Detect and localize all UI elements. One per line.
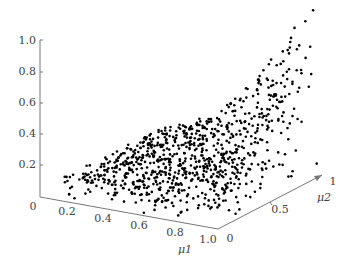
data-point [152,138,155,141]
data-point [136,145,139,148]
mu1-tick-label: 0.8 [166,226,184,239]
data-point [72,174,75,177]
data-point [277,119,280,122]
data-point [236,171,239,174]
data-point [296,118,299,121]
data-point [141,167,144,170]
data-point [258,80,261,83]
data-point [206,128,209,131]
data-point [265,119,268,122]
data-point [234,110,237,113]
data-point [151,191,154,194]
data-point [257,124,260,127]
data-point [217,151,220,154]
data-point [194,137,197,140]
data-point [266,108,269,111]
data-point [84,173,87,176]
data-point [280,132,283,135]
data-point [87,188,90,191]
data-point [220,110,223,113]
data-point [146,150,149,153]
mu1-tick-label: 0.4 [94,212,112,225]
data-point [268,120,271,123]
data-point [135,161,138,164]
data-point [208,162,211,165]
data-point [140,159,143,162]
data-point [143,186,146,189]
data-point [236,168,239,171]
data-point [175,130,178,133]
data-point [197,177,200,180]
data-point [178,147,181,150]
data-point [131,156,134,159]
data-point [198,160,201,163]
data-point [164,127,167,130]
data-point [185,126,188,129]
data-point [225,185,228,188]
data-point [259,183,262,186]
data-point [156,144,159,147]
data-point [297,91,300,94]
data-point [159,170,162,173]
data-point [159,182,162,185]
data-point [219,120,222,123]
data-point [89,164,92,167]
data-point [222,176,225,179]
data-point [276,99,279,102]
data-point [113,175,116,178]
mu2-tick-labels: 0 0.5 1 [227,175,337,245]
data-point [152,183,155,186]
data-point [237,178,240,181]
data-point [209,188,212,191]
data-point [243,127,246,130]
data-point [233,166,236,169]
data-point [180,182,183,185]
data-point [145,193,148,196]
data-point [119,154,122,157]
data-point [191,127,194,130]
data-point [179,160,182,163]
data-point [298,44,301,47]
data-point [223,192,226,195]
data-point [174,171,177,174]
data-point [186,136,189,139]
data-point [128,189,131,192]
data-point [147,185,150,188]
data-point [139,194,142,197]
data-points [63,9,318,217]
data-point [266,149,269,152]
data-point [256,88,259,91]
data-point [304,20,307,23]
data-point [90,171,93,174]
data-point [186,209,189,212]
data-point [231,159,234,162]
data-point [251,180,254,183]
data-point [194,174,197,177]
data-point [137,162,140,165]
data-point [250,163,253,166]
data-point [86,181,89,184]
data-point [183,135,186,138]
data-point [300,121,303,124]
data-point [159,159,162,162]
data-point [286,71,289,74]
data-point [154,204,157,207]
data-point [129,148,132,151]
data-point [108,180,111,183]
data-point [208,157,211,160]
data-point [182,162,185,165]
data-point [107,162,110,165]
data-point [103,163,106,166]
data-point [116,192,119,195]
data-point [117,157,120,160]
data-point [182,174,185,177]
data-point [203,159,206,162]
data-point [257,102,260,105]
data-point [185,146,188,149]
data-point [179,211,182,214]
data-point [201,124,204,127]
data-point [71,186,74,189]
data-point [271,130,274,133]
data-point [210,206,213,209]
data-point [150,173,153,176]
